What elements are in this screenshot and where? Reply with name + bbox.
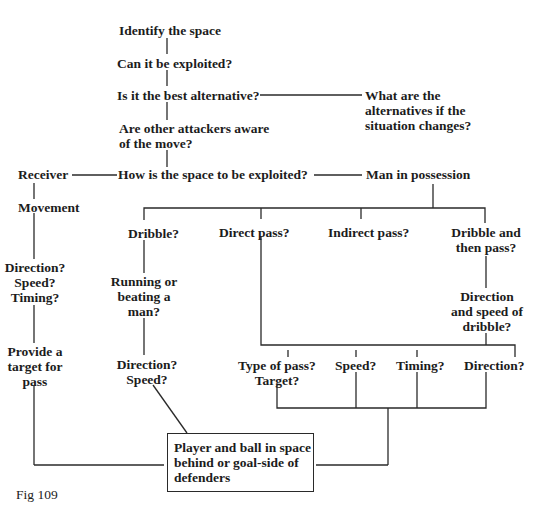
alternatives-line-2: alternatives if the bbox=[365, 103, 471, 118]
aware-line-2: of the move? bbox=[119, 136, 269, 151]
target-line: Target? bbox=[232, 373, 322, 388]
node-alternatives: What are the alternatives if the situati… bbox=[365, 88, 471, 133]
node-receiver-direction-speed-timing: Direction? Speed? Timing? bbox=[0, 260, 70, 305]
node-provide-target: Provide a target for pass bbox=[0, 344, 70, 389]
recv-timing: Timing? bbox=[0, 290, 70, 305]
figure-caption: Fig 109 bbox=[16, 487, 58, 503]
bracket-options bbox=[144, 208, 485, 223]
recv-speed: Speed? bbox=[0, 275, 70, 290]
node-identify-space: Identify the space bbox=[119, 23, 221, 38]
recv-direction: Direction? bbox=[0, 260, 70, 275]
outcome-box: Player and ball in space behind or goal-… bbox=[167, 433, 314, 492]
dds-speed: Speed? bbox=[112, 372, 182, 387]
node-direct-pass: Direct pass? bbox=[219, 225, 290, 240]
running-line-1: Running or bbox=[107, 274, 181, 289]
node-running-beating: Running or beating a man? bbox=[107, 274, 181, 319]
node-dribble-direction-speed: Direction? Speed? bbox=[112, 357, 182, 387]
outcome-text: Player and ball in space behind or goal-… bbox=[168, 434, 313, 485]
node-dribble-then-pass: Dribble and then pass? bbox=[446, 225, 526, 255]
alternatives-line-1: What are the bbox=[365, 88, 471, 103]
dtp-line-2: then pass? bbox=[446, 240, 526, 255]
node-type-of-pass: Type of pass? Target? bbox=[232, 358, 322, 388]
dsd-line-3: dribble? bbox=[444, 319, 530, 334]
dtp-line-1: Dribble and bbox=[446, 225, 526, 240]
node-movement: Movement bbox=[18, 200, 79, 215]
outcome-line-3: defenders bbox=[174, 470, 313, 485]
edge-dirspeed-outcome bbox=[153, 385, 187, 433]
node-can-exploit: Can it be exploited? bbox=[117, 56, 232, 71]
provide-line-1: Provide a bbox=[0, 344, 70, 359]
dsd-line-1: Direction bbox=[444, 289, 530, 304]
dsd-line-2: and speed of bbox=[444, 304, 530, 319]
node-dribble: Dribble? bbox=[128, 226, 179, 241]
running-line-2: beating a bbox=[107, 289, 181, 304]
node-man-in-possession: Man in possession bbox=[366, 167, 470, 182]
node-best-alternative: Is it the best alternative? bbox=[117, 88, 259, 103]
aware-line-1: Are other attackers aware bbox=[119, 121, 269, 136]
node-attackers-aware: Are other attackers aware of the move? bbox=[119, 121, 269, 151]
outcome-line-1: Player and ball in space bbox=[174, 440, 313, 455]
running-line-3: man? bbox=[107, 304, 181, 319]
alternatives-line-3: situation changes? bbox=[365, 118, 471, 133]
provide-line-2: target for bbox=[0, 359, 70, 374]
node-speed: Speed? bbox=[335, 358, 376, 373]
node-direction: Direction? bbox=[464, 358, 525, 373]
node-indirect-pass: Indirect pass? bbox=[328, 225, 409, 240]
type-of-pass-line: Type of pass? bbox=[232, 358, 322, 373]
provide-line-3: pass bbox=[0, 374, 70, 389]
dds-direction: Direction? bbox=[112, 357, 182, 372]
node-receiver: Receiver bbox=[18, 167, 68, 182]
node-how-exploit: How is the space to be exploited? bbox=[118, 167, 308, 182]
outcome-line-2: behind or goal-side of bbox=[174, 455, 313, 470]
node-direction-speed-dribble: Direction and speed of dribble? bbox=[444, 289, 530, 334]
node-timing: Timing? bbox=[396, 358, 445, 373]
